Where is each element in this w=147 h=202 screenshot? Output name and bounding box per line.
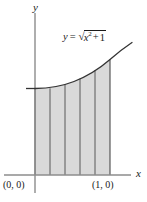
square-root-expression: √x2+1 (78, 29, 106, 42)
radicand-plus-sign: + (92, 31, 100, 42)
radicand: x2+1 (84, 30, 106, 43)
calculus-area-figure: y x (0, 0) (1, 0) y=√x2+1 (0, 0, 147, 202)
upper-limit-point-label: (1, 0) (92, 180, 114, 190)
radicand-constant: 1 (100, 31, 105, 42)
equation-lhs: y (63, 31, 68, 42)
curve-equation-label: y=√x2+1 (63, 29, 106, 42)
shaded-area-under-curve (35, 60, 110, 176)
equation-equals-sign: = (68, 31, 78, 42)
x-axis-label: x (136, 168, 141, 179)
origin-point-label: (0, 0) (3, 180, 25, 190)
y-axis-label: y (33, 2, 38, 13)
